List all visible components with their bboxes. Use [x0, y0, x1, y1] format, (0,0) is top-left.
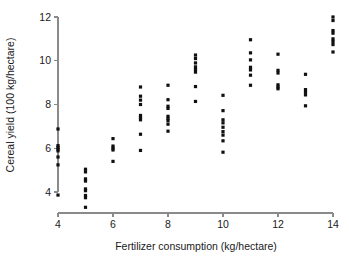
data-point — [194, 100, 197, 103]
data-point — [56, 193, 59, 196]
data-point — [331, 50, 334, 53]
data-point — [276, 87, 279, 90]
data-point — [56, 149, 59, 152]
data-point — [194, 57, 197, 60]
data-point — [194, 85, 197, 88]
data-point — [249, 84, 252, 87]
x-tick-label-8: 8 — [165, 218, 171, 230]
data-point — [221, 134, 224, 137]
data-point — [331, 19, 334, 22]
data-point — [221, 118, 224, 121]
data-point — [139, 99, 142, 102]
data-point — [139, 149, 142, 152]
data-point — [249, 68, 252, 71]
data-point — [221, 121, 224, 124]
data-point — [139, 133, 142, 136]
data-point — [111, 137, 114, 140]
data-point — [221, 109, 224, 112]
x-axis-title: Fertilizer consumption (kg/hectare) — [115, 240, 277, 252]
data-point — [194, 53, 197, 56]
data-point — [249, 58, 252, 61]
data-point — [331, 40, 334, 43]
data-point — [249, 38, 252, 41]
data-points-layer — [56, 15, 334, 209]
x-tick-label-4: 4 — [55, 218, 61, 230]
data-point — [139, 103, 142, 106]
data-point — [304, 73, 307, 76]
y-axis-title: Cereal yield (100 kg/hectare) — [4, 38, 16, 173]
data-point — [166, 119, 169, 122]
data-point — [84, 196, 87, 199]
scatter-plot-figure: 4681012 468101214 Fertilizer consumption… — [0, 0, 349, 263]
y-tick-label-4: 4 — [45, 186, 51, 198]
data-point — [331, 43, 334, 46]
data-point — [221, 94, 224, 97]
data-point — [84, 179, 87, 182]
data-point — [166, 98, 169, 101]
data-point — [84, 170, 87, 173]
data-point — [249, 74, 252, 77]
data-point — [194, 71, 197, 74]
data-point — [166, 130, 169, 133]
data-point — [111, 148, 114, 151]
y-tick-label-10: 10 — [39, 54, 51, 66]
y-tick-label-8: 8 — [45, 98, 51, 110]
data-point — [56, 163, 59, 166]
data-point — [139, 118, 142, 121]
data-point — [276, 71, 279, 74]
data-point — [249, 51, 252, 54]
data-point — [56, 127, 59, 130]
data-point — [56, 155, 59, 158]
data-point — [139, 85, 142, 88]
data-point — [331, 32, 334, 35]
x-tick-label-12: 12 — [272, 218, 284, 230]
y-tick-label-12: 12 — [39, 11, 51, 23]
data-point — [139, 95, 142, 98]
y-tick-label-6: 6 — [45, 142, 51, 154]
x-tick-label-14: 14 — [327, 218, 339, 230]
x-tick-label-6: 6 — [110, 218, 116, 230]
data-point — [111, 160, 114, 163]
data-point — [304, 104, 307, 107]
data-point — [331, 15, 334, 18]
x-tick-label-10: 10 — [217, 218, 229, 230]
data-point — [221, 126, 224, 129]
data-point — [166, 84, 169, 87]
data-point — [221, 139, 224, 142]
data-point — [84, 189, 87, 192]
x-axis: 468101214 — [55, 213, 339, 230]
chart-canvas: 4681012 468101214 Fertilizer consumption… — [0, 0, 349, 263]
data-point — [194, 61, 197, 64]
y-axis: 4681012 — [39, 11, 58, 198]
data-point — [221, 130, 224, 133]
data-point — [304, 93, 307, 96]
data-point — [221, 151, 224, 154]
data-point — [84, 206, 87, 209]
data-point — [276, 53, 279, 56]
data-point — [166, 107, 169, 110]
data-point — [166, 123, 169, 126]
